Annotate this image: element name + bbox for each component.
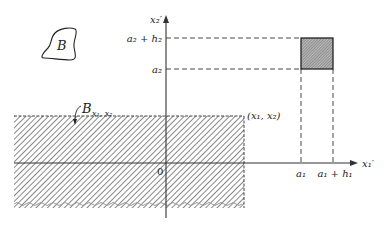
vertical-axis-label: x₂′: [150, 14, 163, 25]
region-b-label: B: [56, 38, 67, 53]
corner-label: (x₁, x₂): [247, 110, 281, 121]
horizontal-axis-arrow-icon: [350, 160, 358, 166]
tick-a1: a₁: [296, 168, 306, 179]
set-subscript: x₁, x₂: [92, 109, 113, 118]
diagram: B B x₁, x₂ (x₁, x₂) 0 x₂′ x₁′ a₂ + h₂ a₂…: [0, 0, 387, 231]
tick-a2-plus-h2: a₂ + h₂: [127, 33, 162, 44]
horizontal-axis-label: x₁′: [362, 158, 375, 169]
origin-label: 0: [157, 166, 163, 177]
set-label: B: [81, 101, 92, 116]
shaded-square: [301, 38, 333, 69]
tick-a1-plus-h1: a₁ + h₁: [317, 168, 352, 179]
tick-a2: a₂: [152, 64, 162, 75]
hatched-region: [14, 116, 244, 208]
vertical-axis-arrow-icon: [163, 15, 169, 23]
